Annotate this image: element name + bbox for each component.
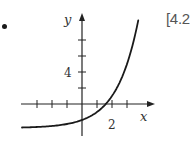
graph-figure: [4.2 y x 4 2 (0, 0, 192, 146)
y-axis-label: y (63, 12, 72, 27)
x-axis-label: x (140, 109, 148, 124)
exponential-curve (22, 20, 138, 127)
x-axis-arrow-icon (147, 101, 155, 107)
y-axis-arrow-icon (79, 13, 85, 21)
x-tick-label-2: 2 (108, 118, 116, 132)
chart-svg: y x 4 2 (0, 0, 192, 146)
y-tick-label-4: 4 (64, 66, 72, 80)
